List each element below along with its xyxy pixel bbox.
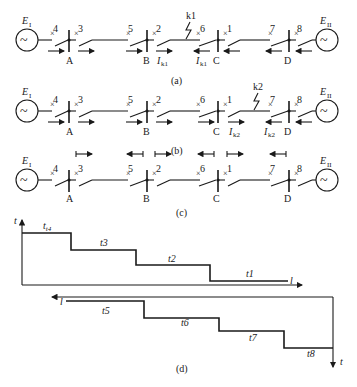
svg-text:4: 4 [53, 163, 58, 174]
svg-text:t6: t6 [181, 317, 189, 328]
svg-text:A: A [66, 126, 74, 137]
time-grading-reverse: l t5 t6 t7 t8 t [52, 296, 343, 367]
svg-text:k2: k2 [233, 131, 241, 139]
svg-text:5: 5 [128, 163, 133, 174]
panel-b: ~ E I × 4 × 3 A × 5 × 2 B × 6 × [16, 81, 338, 157]
caption-a: (a) [171, 75, 182, 87]
svg-text:4: 4 [53, 94, 58, 105]
svg-text:t5: t5 [102, 305, 110, 316]
svg-text:6: 6 [200, 94, 205, 105]
svg-text:~: ~ [320, 104, 328, 119]
svg-text:6: 6 [200, 23, 205, 34]
svg-text:E: E [21, 86, 28, 97]
svg-text:A: A [66, 193, 74, 204]
svg-text:A: A [66, 55, 74, 66]
svg-text:D: D [284, 126, 291, 137]
svg-text:t7: t7 [249, 332, 258, 343]
svg-text:B: B [143, 126, 150, 137]
svg-text:k1: k1 [200, 60, 208, 68]
svg-text:3: 3 [78, 163, 83, 174]
svg-text:l: l [60, 296, 63, 307]
svg-text:2: 2 [156, 23, 161, 34]
svg-text:2: 2 [156, 94, 161, 105]
svg-text:II: II [327, 161, 332, 169]
svg-text:k1: k1 [161, 60, 169, 68]
svg-text:t: t [14, 215, 17, 226]
svg-text:6: 6 [200, 163, 205, 174]
svg-text:C: C [213, 55, 220, 66]
svg-text:5: 5 [128, 23, 133, 34]
svg-text:8: 8 [297, 163, 302, 174]
svg-text:~: ~ [320, 33, 328, 48]
svg-text:~: ~ [20, 104, 28, 119]
svg-text:E: E [21, 15, 28, 26]
svg-text:8: 8 [297, 94, 302, 105]
svg-text:8: 8 [297, 23, 302, 34]
svg-text:I: I [29, 21, 32, 29]
svg-text:tt4: tt4 [43, 220, 52, 233]
svg-text:k2: k2 [268, 131, 276, 139]
svg-text:~: ~ [20, 173, 28, 188]
panel-d: t tt4 t3 t2 t1 l l t5 t6 t7 t8 t (d) [14, 215, 343, 375]
svg-text:4: 4 [53, 23, 58, 34]
panel-a: ~ E I × 4 × 3 A × 5 × 2 B I k [16, 10, 338, 87]
svg-text:D: D [284, 55, 291, 66]
svg-text:t2: t2 [168, 253, 176, 264]
caption-c: (c) [176, 207, 187, 219]
svg-text:7: 7 [270, 23, 275, 34]
svg-text:k2: k2 [253, 81, 263, 92]
generator-left: ~ E I [16, 15, 38, 51]
svg-text:t1: t1 [246, 268, 254, 279]
svg-text:3: 3 [78, 23, 83, 34]
svg-text:C: C [213, 193, 220, 204]
svg-text:E: E [319, 155, 326, 166]
svg-text:I: I [29, 92, 32, 100]
svg-text:3: 3 [78, 94, 83, 105]
svg-text:1: 1 [227, 163, 232, 174]
svg-text:E: E [319, 15, 326, 26]
svg-text:7: 7 [270, 163, 275, 174]
svg-text:E: E [21, 155, 28, 166]
generator-right: ~ E II [316, 15, 338, 51]
svg-text:1: 1 [227, 94, 232, 105]
svg-text:t: t [340, 356, 343, 367]
svg-text:5: 5 [128, 94, 133, 105]
svg-text:~: ~ [20, 33, 28, 48]
svg-text:II: II [327, 21, 332, 29]
svg-text:t3: t3 [100, 237, 108, 248]
svg-text:B: B [143, 55, 150, 66]
svg-text:D: D [284, 193, 291, 204]
svg-text:II: II [327, 92, 332, 100]
time-grading-forward: t tt4 t3 t2 t1 l [14, 215, 302, 286]
svg-text:1: 1 [227, 23, 232, 34]
svg-text:t8: t8 [307, 348, 315, 359]
panel-c: ~ E I × 4 × 3 A × 5 × 2 B × 6 × 1 C [16, 151, 338, 219]
svg-text:E: E [319, 86, 326, 97]
caption-b: (b) [171, 145, 183, 157]
svg-text:~: ~ [320, 173, 328, 188]
svg-text:k1: k1 [186, 10, 196, 21]
svg-text:C: C [213, 126, 220, 137]
svg-text:2: 2 [156, 163, 161, 174]
svg-text:I: I [29, 161, 32, 169]
svg-text:B: B [143, 193, 150, 204]
svg-text:7: 7 [270, 94, 275, 105]
svg-text:l: l [290, 275, 293, 286]
caption-d: (d) [176, 363, 188, 375]
